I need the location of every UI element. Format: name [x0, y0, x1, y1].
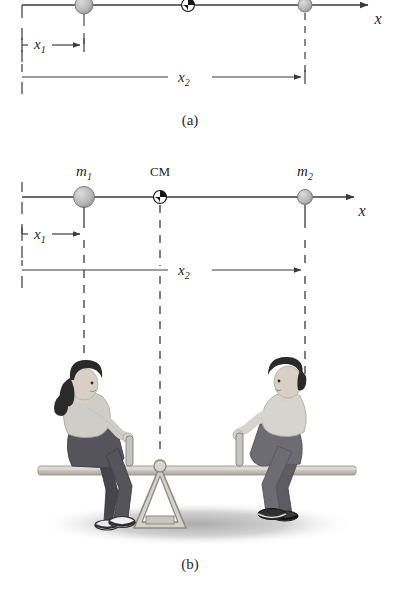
- panel-b-cm-label: CM: [150, 164, 171, 179]
- panel-a-x1-sub: 1: [41, 44, 46, 55]
- panel-b-m2-base: m: [297, 163, 308, 179]
- panel-a-dim-x2: [22, 70, 305, 84]
- panel-a-mass1-marker: [75, 0, 93, 14]
- panel-b-mass2-label: m2: [297, 163, 313, 182]
- panel-b-mass1-label: m1: [76, 163, 92, 182]
- figure-canvas: x x1 x2 m1 CM m2 x x1 x2: [0, 0, 394, 598]
- panel-a-x-axis-label: x: [373, 10, 381, 27]
- panel-b-mass2-marker: [298, 190, 313, 205]
- panel-b-mass1-marker: [74, 187, 95, 208]
- panel-a-x1-label: x1: [33, 36, 46, 55]
- rider-girl: [54, 360, 135, 530]
- panel-b-x2-label: x2: [177, 262, 190, 281]
- rider-boy: [233, 357, 306, 521]
- panel-a-labels: x x1 x2: [33, 10, 382, 88]
- panel-b-dim-x1: [22, 227, 80, 241]
- ground-shadow: [37, 502, 357, 546]
- panel-b-m1-base: m: [76, 163, 87, 179]
- panel-a-cm-marker: [182, 0, 195, 12]
- panel-a-x2-label: x2: [177, 69, 190, 88]
- panel-a-dim-x1: [22, 38, 84, 52]
- panel-b-m1-sub: 1: [87, 171, 92, 182]
- panel-a-mass2-marker: [298, 0, 312, 12]
- panel-b: [22, 182, 357, 546]
- panel-b-x1-sub: 1: [41, 234, 46, 245]
- panel-b-m2-sub: 2: [308, 171, 313, 182]
- panel-a-caption: (a): [160, 112, 220, 129]
- panel-b-labels: m1 CM m2 x x1 x2: [33, 163, 366, 281]
- panel-a: [22, 0, 368, 94]
- panel-b-cm-marker: [154, 191, 167, 204]
- physics-figure-center-of-mass: x x1 x2 m1 CM m2 x x1 x2 (a) (b): [0, 0, 394, 598]
- seesaw-plank: [38, 466, 356, 475]
- panel-b-x1-label: x1: [33, 226, 46, 245]
- panel-b-caption: (b): [160, 556, 220, 573]
- panel-a-x2-sub: 2: [185, 77, 190, 88]
- panel-b-x-axis-label: x: [357, 202, 365, 219]
- panel-b-x2-sub: 2: [185, 270, 190, 281]
